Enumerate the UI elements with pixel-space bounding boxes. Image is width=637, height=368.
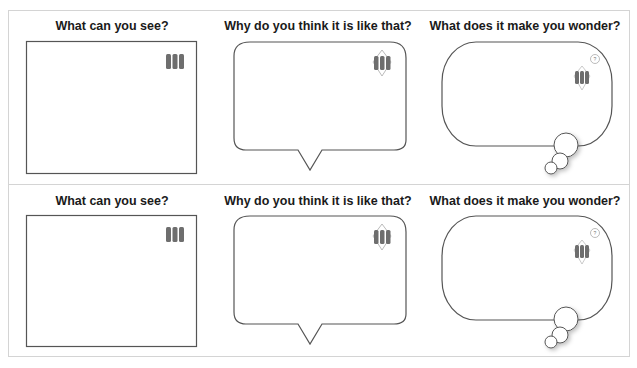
- microscope-slide-icon: [166, 54, 184, 69]
- worksheet-row-2: What can you see? Why do you think it is…: [8, 184, 630, 359]
- panel-wonder: What does it make you wonder? ?: [420, 10, 630, 184]
- panel-wonder: What does it make you wonder? ?: [420, 185, 630, 359]
- see-box: [8, 185, 216, 359]
- worksheet-row-1: What can you see? Why do you think it is…: [8, 10, 630, 184]
- wonder-answer-area[interactable]: [442, 216, 612, 320]
- wonder-answer-area[interactable]: [442, 42, 612, 146]
- panel-why: Why do you think it is like that?: [216, 185, 420, 359]
- thought-bubble: ?: [420, 185, 630, 359]
- speech-bubble: [216, 10, 420, 184]
- svg-text:?: ?: [594, 230, 597, 236]
- see-box: [8, 10, 216, 184]
- speech-bubble: [216, 185, 420, 359]
- panel-see: What can you see?: [8, 10, 216, 184]
- panel-see: What can you see?: [8, 185, 216, 359]
- svg-text:?: ?: [594, 56, 597, 62]
- thought-bubble: ?: [420, 10, 630, 184]
- panel-why: Why do you think it is like that?: [216, 10, 420, 184]
- microscope-slide-icon: [166, 227, 184, 242]
